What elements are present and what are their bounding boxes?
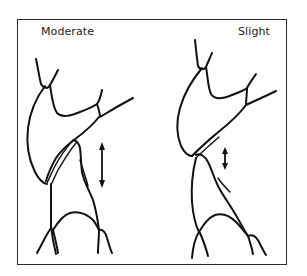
moderate-anatomy-drawing bbox=[27, 59, 133, 254]
short-double-arrow-icon bbox=[222, 147, 228, 170]
diagram-illustration bbox=[0, 0, 307, 276]
slight-anatomy-drawing bbox=[177, 40, 276, 258]
long-double-arrow-icon bbox=[99, 142, 105, 188]
